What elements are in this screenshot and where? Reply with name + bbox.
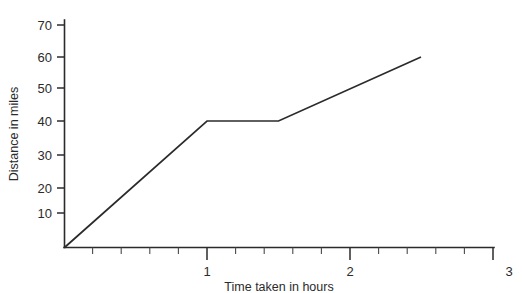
y-tick-label-60: 60: [38, 50, 52, 65]
y-tick-label-10: 10: [38, 206, 52, 221]
x-tick-label-3: 3: [505, 264, 512, 279]
chart-background: [0, 0, 522, 293]
y-axis-title: Distance in miles: [7, 87, 21, 181]
line-chart: 70 60 50 40 30 20 10: [0, 0, 522, 293]
x-tick-label-1: 1: [203, 264, 210, 279]
y-tick-label-50: 50: [38, 81, 52, 96]
x-axis-title: Time taken in hours: [224, 280, 333, 293]
x-tick-label-2: 2: [346, 264, 353, 279]
y-tick-label-40: 40: [38, 114, 52, 129]
chart-canvas: 70 60 50 40 30 20 10: [0, 0, 522, 293]
y-tick-label-20: 20: [38, 181, 52, 196]
y-tick-label-70: 70: [38, 18, 52, 33]
y-tick-label-30: 30: [38, 148, 52, 163]
